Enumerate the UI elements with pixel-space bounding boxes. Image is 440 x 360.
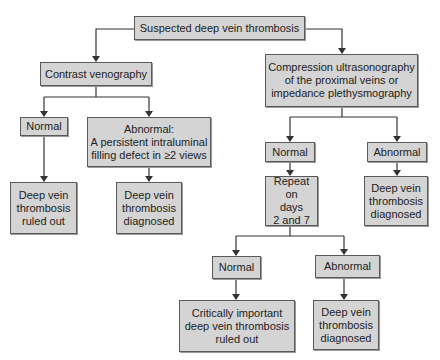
node-repeat-dvt-diagnosed: Deep vein thrombosis diagnosed: [313, 300, 379, 350]
node-cus-dvt-diagnosed: Deep vein thrombosis diagnosed: [364, 176, 428, 226]
node-contrast-venography: Contrast venography: [40, 62, 152, 86]
node-cus-abnormal: Abnormal: [367, 142, 427, 162]
node-venography-abnormal: Abnormal: A persistent intraluminal fill…: [87, 117, 211, 167]
node-repeat-days: Repeat on days 2 and 7: [265, 176, 318, 226]
node-venography-dvt-diagnosed: Deep vein thrombosis diagnosed: [116, 182, 182, 234]
node-cus-normal: Normal: [265, 142, 315, 162]
node-venography-dvt-ruled-out: Deep vein thrombosis ruled out: [10, 182, 77, 234]
node-compression-ultrasonography: Compression ultrasonography of the proxi…: [265, 54, 418, 107]
node-repeat-abnormal: Abnormal: [315, 255, 380, 278]
node-venography-normal: Normal: [20, 117, 68, 136]
node-repeat-normal: Normal: [212, 256, 261, 279]
node-suspected-dvt: Suspected deep vein thrombosis: [134, 16, 305, 40]
node-critically-important-ruled-out: Critically important deep vein thrombosi…: [179, 300, 295, 352]
